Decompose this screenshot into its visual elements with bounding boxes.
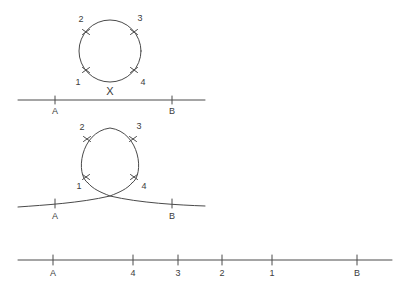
panel-middle-marker-3 [130, 137, 137, 142]
panel-top-marker-label-4: 4 [140, 77, 145, 87]
panel-top: 2 3 1 4 X A B [18, 13, 205, 116]
panel-middle-curve-left [18, 183, 132, 207]
panel-top-marker-1 [83, 68, 90, 73]
panel-bottom-label-2: 2 [219, 268, 224, 278]
panel-top-marker-label-1: 1 [75, 77, 80, 87]
panel-top-marker-label-3: 3 [137, 13, 142, 23]
panel-top-label-a: A [52, 106, 58, 116]
panel-top-cross-mark: X [106, 85, 114, 97]
panel-middle-label-a: A [52, 211, 58, 221]
panel-bottom-label-b: B [354, 268, 360, 278]
panel-middle-marker-2 [84, 137, 91, 142]
panel-bottom: A 4 3 2 1 B [18, 255, 392, 278]
panel-middle-marker-label-1: 1 [76, 181, 81, 191]
figure-canvas: 2 3 1 4 X A B [0, 0, 410, 282]
panel-top-marker-label-2: 2 [78, 14, 83, 24]
panel-top-marker-2 [83, 30, 90, 35]
panel-middle-label-b: B [169, 211, 175, 221]
geometry-diagram: 2 3 1 4 X A B [0, 0, 410, 282]
panel-bottom-label-a: A [50, 268, 56, 278]
panel-top-label-b: B [169, 106, 175, 116]
panel-top-circle [79, 20, 141, 82]
panel-middle: 2 3 1 4 A B [18, 121, 205, 221]
panel-top-marker-3 [131, 30, 138, 35]
panel-top-marker-4 [131, 68, 138, 73]
panel-middle-marker-label-3: 3 [136, 121, 141, 131]
panel-bottom-label-4: 4 [130, 268, 135, 278]
panel-bottom-label-1: 1 [269, 268, 274, 278]
panel-middle-marker-label-2: 2 [79, 122, 84, 132]
panel-middle-marker-label-4: 4 [141, 181, 146, 191]
panel-bottom-label-3: 3 [175, 268, 180, 278]
